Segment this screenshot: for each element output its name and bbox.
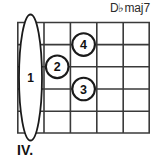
finger-dot-label: 3	[80, 83, 87, 97]
barre-finger-label: 1	[27, 71, 34, 85]
finger-dot-3: 3	[72, 78, 95, 101]
finger-dot-2: 2	[46, 56, 69, 79]
finger-dot-4: 4	[72, 33, 95, 56]
guitar-chord-diagram: D♭maj7 1 4	[0, 0, 158, 166]
finger-dot-label: 4	[80, 38, 87, 52]
finger-dot-label: 2	[54, 60, 61, 74]
barre-indicator: 1	[19, 15, 42, 141]
fret-position-marker: IV.	[17, 142, 33, 158]
